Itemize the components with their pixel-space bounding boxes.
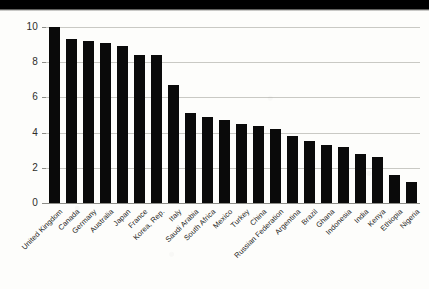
y-tick-mark-8 xyxy=(42,62,46,63)
bar xyxy=(287,136,298,203)
bar xyxy=(321,145,332,203)
y-tick-mark-6 xyxy=(42,97,46,98)
gridline-10 xyxy=(46,27,420,28)
y-tick-label-2: 2 xyxy=(12,162,38,173)
bar xyxy=(151,55,162,203)
y-tick-mark-0 xyxy=(42,203,46,204)
bar xyxy=(168,85,179,203)
bar xyxy=(270,129,281,203)
bar xyxy=(202,117,213,203)
bar xyxy=(406,182,417,203)
x-axis-label: United Kingdom xyxy=(19,207,64,252)
y-tick-label-0: 0 xyxy=(12,197,38,208)
bar xyxy=(49,27,60,203)
bar xyxy=(117,46,128,203)
bar xyxy=(219,120,230,203)
bar xyxy=(83,41,94,203)
gridline-0 xyxy=(46,203,420,204)
bar xyxy=(389,175,400,203)
bar xyxy=(253,126,264,203)
bar xyxy=(355,154,366,203)
y-tick-mark-2 xyxy=(42,168,46,169)
y-tick-label-4: 4 xyxy=(12,127,38,138)
bar xyxy=(66,39,77,203)
bar xyxy=(100,43,111,203)
y-tick-label-6: 6 xyxy=(12,91,38,102)
bar xyxy=(338,147,349,203)
bar xyxy=(304,141,315,203)
y-tick-mark-4 xyxy=(42,133,46,134)
bar xyxy=(372,157,383,203)
y-tick-label-10: 10 xyxy=(12,21,38,32)
y-tick-label-8: 8 xyxy=(12,56,38,67)
bar xyxy=(236,124,247,203)
bar-chart: 0246810 United KingdomCanadaGermanyAustr… xyxy=(0,0,429,289)
bar xyxy=(134,55,145,203)
bar xyxy=(185,113,196,203)
y-tick-mark-10 xyxy=(42,27,46,28)
